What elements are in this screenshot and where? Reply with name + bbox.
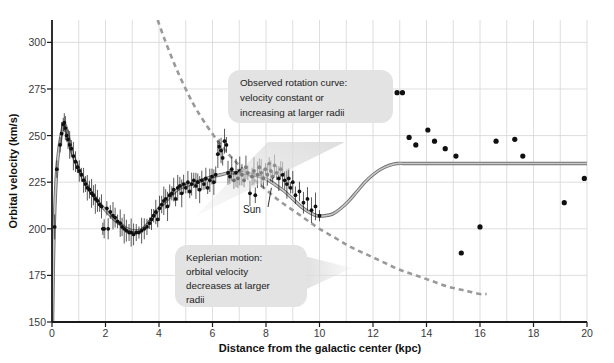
keplerian-callout-line-1: Keplerian motion: <box>186 252 262 263</box>
data-point <box>204 177 208 181</box>
data-point <box>194 184 198 188</box>
x-tick-label: 0 <box>49 327 55 339</box>
data-point <box>182 182 186 186</box>
data-point <box>248 191 252 195</box>
y-tick-label: 200 <box>28 223 46 235</box>
data-point <box>196 180 200 184</box>
observed-callout-line-2: velocity constant or <box>240 92 325 103</box>
keplerian-callout-line-3: decreases at larger <box>186 280 271 291</box>
data-point <box>118 221 122 225</box>
data-point <box>154 210 158 214</box>
data-point <box>80 173 84 177</box>
data-point <box>223 139 227 143</box>
data-point <box>394 90 399 95</box>
data-point <box>72 154 76 158</box>
data-point <box>285 182 289 186</box>
data-point <box>253 193 257 197</box>
data-point <box>188 190 192 194</box>
data-point <box>192 178 196 182</box>
data-point <box>174 197 178 201</box>
x-tick-label: 18 <box>528 327 540 339</box>
data-point <box>190 182 194 186</box>
data-point <box>291 180 295 184</box>
data-point <box>105 206 109 210</box>
data-point <box>186 180 190 184</box>
data-point <box>166 205 170 209</box>
data-point <box>88 188 92 192</box>
data-point <box>477 224 482 229</box>
data-point <box>164 197 168 201</box>
data-point <box>148 221 152 225</box>
data-point <box>206 186 210 190</box>
data-point <box>214 173 218 177</box>
data-point <box>493 139 498 144</box>
data-point <box>200 178 204 182</box>
data-point <box>318 214 322 218</box>
data-point <box>92 193 96 197</box>
data-point <box>108 210 112 214</box>
data-point <box>289 186 293 190</box>
data-point <box>77 169 81 173</box>
data-point <box>230 167 234 171</box>
data-point <box>287 177 291 181</box>
data-point <box>76 165 80 169</box>
data-point <box>314 205 318 209</box>
data-point <box>84 182 88 186</box>
y-tick-label: 175 <box>28 269 46 281</box>
keplerian-callout-line-2: orbital velocity <box>186 266 248 277</box>
data-point <box>113 216 117 220</box>
data-point <box>53 225 57 229</box>
data-point <box>306 197 310 201</box>
data-point <box>150 218 154 222</box>
data-point <box>310 208 314 212</box>
data-point <box>400 90 405 95</box>
data-point <box>210 175 214 179</box>
observed-rotation-callout: Observed rotation curve: velocity consta… <box>228 70 393 123</box>
rotation-curve-figure: Observed rotation curve: velocity consta… <box>0 0 614 363</box>
data-point <box>225 143 229 147</box>
x-tick-label: 2 <box>103 327 109 339</box>
x-tick-label: 6 <box>210 327 216 339</box>
x-axis-title: Distance from the galactic center (kpc) <box>219 342 422 354</box>
observed-callout-line-3: increasing at larger radii <box>240 107 345 118</box>
x-tick-label: 20 <box>581 327 593 339</box>
chart-svg: Observed rotation curve: velocity consta… <box>0 0 614 363</box>
data-point <box>102 227 106 231</box>
y-tick-label: 225 <box>28 176 46 188</box>
data-point <box>74 160 78 164</box>
data-point <box>106 227 110 231</box>
data-point <box>226 171 230 175</box>
x-tick-label: 14 <box>421 327 433 339</box>
x-tick-label: 16 <box>474 327 486 339</box>
data-point <box>512 137 517 142</box>
data-point <box>172 188 176 192</box>
data-point <box>413 142 418 147</box>
data-point <box>208 178 212 182</box>
data-point <box>298 190 302 194</box>
data-point <box>459 250 464 255</box>
figure-background <box>0 0 614 363</box>
data-point <box>277 177 281 181</box>
y-tick-label: 300 <box>28 36 46 48</box>
data-point <box>180 191 184 195</box>
data-point <box>160 203 164 207</box>
data-point <box>202 182 206 186</box>
data-point <box>217 145 221 149</box>
data-point <box>283 178 287 182</box>
y-axis-title: Orbital velocity (km/s) <box>7 113 19 228</box>
data-point <box>221 156 225 160</box>
data-point <box>60 132 64 136</box>
sun-label: Sun <box>243 204 261 215</box>
data-point <box>520 153 525 158</box>
data-point <box>582 176 587 181</box>
data-point <box>425 127 430 132</box>
data-point <box>145 225 149 229</box>
data-point <box>96 199 100 203</box>
data-point <box>158 206 162 210</box>
data-point <box>69 147 73 151</box>
data-point <box>294 193 298 197</box>
data-point <box>228 175 232 179</box>
data-point <box>184 186 188 190</box>
x-tick-label: 12 <box>367 327 379 339</box>
data-point <box>152 214 156 218</box>
